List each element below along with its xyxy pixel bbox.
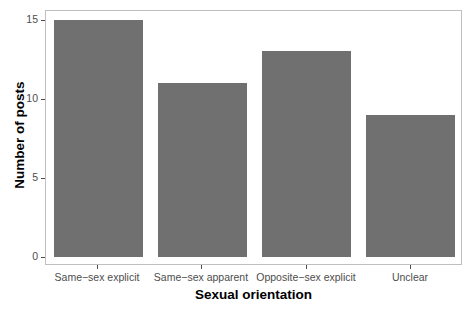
x-tick-mark	[201, 265, 202, 269]
bar	[54, 20, 143, 258]
x-tick-mark	[97, 265, 98, 269]
x-tick-label: Same−sex explicit	[55, 271, 140, 283]
x-tick-mark	[410, 265, 411, 269]
y-tick-label: 5	[0, 171, 38, 183]
y-tick-label: 0	[0, 250, 38, 262]
plot-panel	[45, 10, 462, 265]
x-axis-title: Sexual orientation	[45, 287, 462, 302]
bar	[366, 115, 455, 258]
y-axis-title: Number of posts	[10, 2, 30, 268]
bar	[158, 83, 247, 257]
x-tick-label: Unclear	[392, 271, 428, 283]
bars-layer	[46, 11, 461, 264]
y-tick-label: 10	[0, 92, 38, 104]
y-tick-label: 15	[0, 13, 38, 25]
x-tick-label: Same−sex apparent	[154, 271, 248, 283]
bar-chart-figure: Number of posts 051015 Same−sex explicit…	[0, 0, 472, 312]
bar	[262, 51, 351, 257]
x-tick-mark	[306, 265, 307, 269]
x-tick-label: Opposite−sex explicit	[256, 271, 356, 283]
